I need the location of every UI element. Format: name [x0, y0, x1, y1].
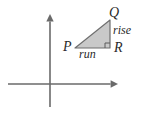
vertex-label-r: R	[114, 41, 123, 55]
y-axis-arrowhead-icon	[46, 14, 53, 21]
x-axis-arrowhead-icon	[111, 80, 118, 87]
vertex-label-q: Q	[109, 6, 119, 20]
leg-label-run: run	[79, 48, 96, 60]
slope-triangle-figure: Q P R rise run	[0, 0, 143, 115]
leg-label-rise: rise	[113, 24, 131, 36]
figure-canvas	[0, 0, 143, 115]
triangle-pqr	[75, 20, 110, 48]
x-axis	[8, 80, 118, 87]
y-axis	[46, 14, 53, 107]
vertex-label-p: P	[63, 40, 72, 54]
